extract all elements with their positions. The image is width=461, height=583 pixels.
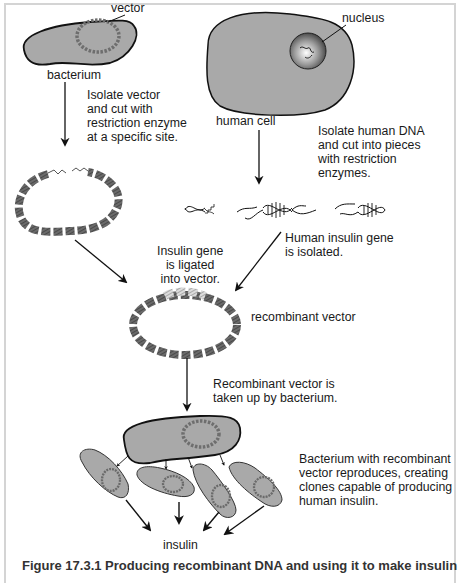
arrow-vector-to-recombinant <box>75 240 126 282</box>
step-reproduces: Bacterium with recombinant vector reprod… <box>299 452 452 508</box>
dna-fragments <box>185 202 385 219</box>
figure-caption: Figure 17.3.1 Producing recombinant DNA … <box>22 558 457 573</box>
label-vector: vector <box>111 1 145 15</box>
cut-vector-plasmid <box>19 168 119 232</box>
insulin-arrows <box>126 500 264 534</box>
step-gene-ligated: Insulin gene is ligated into vector. <box>157 244 223 286</box>
label-insulin: insulin <box>163 538 198 552</box>
step-isolate-vector: Isolate vector and cut with restriction … <box>87 88 187 144</box>
label-nucleus: nucleus <box>342 11 384 25</box>
human-cell <box>207 12 354 115</box>
recombinant-vector-plasmid <box>133 292 237 356</box>
bacterium-with-vector <box>24 15 137 65</box>
step-isolate-dna: Isolate human DNA and cut into pieces wi… <box>318 124 425 180</box>
recombinant-bacterium <box>124 416 241 464</box>
step-gene-isolated: Human insulin gene is isolated. <box>285 231 394 259</box>
label-human-cell: human cell <box>216 114 275 128</box>
label-bacterium: bacterium <box>47 68 101 82</box>
label-recombinant-vector: recombinant vector <box>251 310 356 324</box>
arrow-gene-to-recombinant <box>236 232 281 290</box>
step-taken-up: Recombinant vector is taken up by bacter… <box>213 377 337 405</box>
